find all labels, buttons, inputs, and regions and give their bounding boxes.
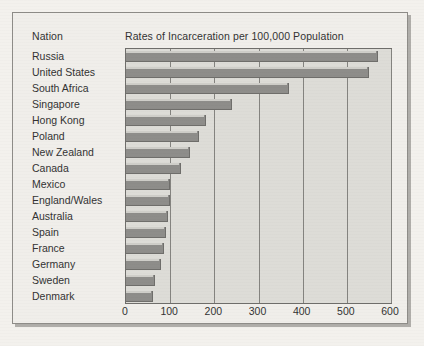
- nation-label: Canada: [32, 160, 69, 176]
- x-tick-label: 600: [381, 305, 399, 317]
- nation-label: Denmark: [32, 288, 75, 304]
- nation-column-header: Nation: [32, 30, 63, 42]
- bar: [126, 83, 289, 94]
- x-tick-label: 0: [122, 305, 128, 317]
- nation-label: Hong Kong: [32, 112, 85, 128]
- bar-highlight: [126, 259, 159, 261]
- x-tick-label: 100: [160, 305, 178, 317]
- bar-highlight: [126, 99, 230, 101]
- bar: [126, 211, 168, 222]
- nation-label: Russia: [32, 48, 64, 64]
- bar-highlight: [126, 131, 197, 133]
- bar-row: [126, 209, 393, 225]
- bar-highlight: [126, 195, 168, 197]
- bar-row: [126, 257, 393, 273]
- nation-label: Germany: [32, 256, 75, 272]
- plot-area: [125, 48, 392, 304]
- bar-highlight: [126, 291, 151, 293]
- bar-row: [126, 177, 393, 193]
- bar-row: [126, 129, 393, 145]
- x-tick-label: 500: [337, 305, 355, 317]
- nation-label: Singapore: [32, 96, 80, 112]
- category-axis-labels: RussiaUnited StatesSouth AfricaSingapore…: [32, 48, 122, 304]
- bar-highlight: [126, 179, 168, 181]
- bar: [126, 275, 155, 286]
- bar-row: [126, 241, 393, 257]
- bar-highlight: [126, 243, 162, 245]
- bar-highlight: [126, 115, 204, 117]
- nation-label: South Africa: [32, 80, 89, 96]
- x-axis-tick-labels: 0100200300400500600: [125, 305, 392, 321]
- bar-row: [126, 193, 393, 209]
- x-tick-label: 300: [249, 305, 267, 317]
- bar: [126, 115, 206, 126]
- bar-row: [126, 65, 393, 81]
- nation-label: England/Wales: [32, 192, 102, 208]
- bar-highlight: [126, 275, 153, 277]
- nation-label: New Zealand: [32, 144, 94, 160]
- nation-label: Sweden: [32, 272, 70, 288]
- bar: [126, 259, 161, 270]
- bar-highlight: [126, 51, 376, 53]
- nation-label: Poland: [32, 128, 65, 144]
- bar-row: [126, 49, 393, 65]
- bar-row: [126, 289, 393, 305]
- incarceration-rates-figure: Nation Rates of Incarceration per 100,00…: [0, 0, 424, 346]
- bar: [126, 99, 232, 110]
- bar-highlight: [126, 211, 166, 213]
- nation-label: Mexico: [32, 176, 65, 192]
- bar-highlight: [126, 67, 367, 69]
- bar: [126, 67, 369, 78]
- bar-row: [126, 81, 393, 97]
- bar: [126, 147, 190, 158]
- x-tick-label: 400: [293, 305, 311, 317]
- chart-title: Rates of Incarceration per 100,000 Popul…: [125, 30, 344, 42]
- x-tick-label: 200: [205, 305, 223, 317]
- bar: [126, 243, 164, 254]
- bar: [126, 163, 181, 174]
- bar-row: [126, 161, 393, 177]
- bar-highlight: [126, 83, 287, 85]
- bar: [126, 227, 166, 238]
- bar-highlight: [126, 163, 179, 165]
- bar-highlight: [126, 147, 188, 149]
- bar: [126, 291, 153, 302]
- bar-row: [126, 97, 393, 113]
- nation-label: France: [32, 240, 65, 256]
- nation-label: United States: [32, 64, 95, 80]
- bar-row: [126, 225, 393, 241]
- bar-row: [126, 145, 393, 161]
- nation-label: Australia: [32, 208, 73, 224]
- bar-row: [126, 273, 393, 289]
- nation-label: Spain: [32, 224, 59, 240]
- bar-row: [126, 113, 393, 129]
- bar: [126, 131, 199, 142]
- bar: [126, 195, 170, 206]
- bar-highlight: [126, 227, 164, 229]
- bar: [126, 51, 378, 62]
- bar: [126, 179, 170, 190]
